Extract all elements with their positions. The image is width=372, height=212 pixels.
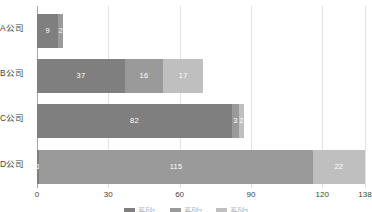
bar-segment-label: 2 <box>59 27 63 35</box>
x-axis-tick-label: 120 <box>316 190 329 199</box>
legend-item[interactable]: 系列1 <box>124 205 156 212</box>
bar-segment-label: 3 <box>233 117 237 125</box>
bar-stack[interactable]: 8232 <box>37 104 244 138</box>
bar-stack[interactable]: 92 <box>37 14 63 48</box>
legend-swatch <box>124 208 135 212</box>
x-axis-tick-label: 138 <box>358 190 371 199</box>
bar-row: 92 <box>37 14 365 48</box>
bar-segment[interactable]: 2 <box>58 14 63 48</box>
bar-segment[interactable]: 115 <box>39 150 312 184</box>
bar-segment-label: 22 <box>334 163 343 171</box>
y-axis-label-0: A公司 <box>0 21 33 33</box>
bar-segment[interactable]: 16 <box>125 59 163 93</box>
bar-segment[interactable]: 82 <box>37 104 232 138</box>
x-axis: 0306090120138 <box>37 190 365 202</box>
legend-item[interactable]: 系列2 <box>170 205 202 212</box>
bar-segment[interactable]: 2 <box>239 104 244 138</box>
bar-segment-label: 2 <box>239 117 243 125</box>
legend-item[interactable]: 系列3 <box>216 205 248 212</box>
legend-swatch <box>216 208 227 212</box>
bar-segment[interactable]: 3 <box>232 104 239 138</box>
legend-label: 系列2 <box>184 205 202 212</box>
x-axis-tick-label: 90 <box>246 190 255 199</box>
y-axis-label-1: B公司 <box>0 66 33 78</box>
legend: 系列1系列2系列3 <box>0 205 372 212</box>
bar-segment-label: 17 <box>179 72 188 80</box>
bar-segment[interactable]: 37 <box>37 59 125 93</box>
bar-segment-label: 37 <box>77 72 86 80</box>
bar-segment-label: 9 <box>46 27 50 35</box>
bar-segment[interactable]: 9 <box>37 14 58 48</box>
bar-segment-label: 115 <box>170 163 183 171</box>
bar-segment-label: 16 <box>140 72 149 80</box>
x-axis-tick-label: 0 <box>35 190 39 199</box>
x-axis-tick-label: 60 <box>175 190 184 199</box>
bar-segment[interactable]: 17 <box>163 59 203 93</box>
gridline-138 <box>365 6 366 188</box>
bar-stack[interactable]: 371617 <box>37 59 203 93</box>
legend-label: 系列1 <box>138 205 156 212</box>
stacked-bar-chart: A公司 B公司 C公司 D公司 923716178232111522 03060… <box>0 0 372 212</box>
y-axis-label-2: C公司 <box>0 111 33 123</box>
bar-stack[interactable]: 111522 <box>37 150 365 184</box>
bar-row: 111522 <box>37 150 365 184</box>
y-axis-label-3: D公司 <box>0 157 33 169</box>
bar-segment-label: 82 <box>130 117 139 125</box>
bar-segment[interactable]: 22 <box>313 150 365 184</box>
plot-area: 923716178232111522 <box>37 6 365 188</box>
legend-swatch <box>170 208 181 212</box>
bar-row: 371617 <box>37 59 365 93</box>
bar-row: 8232 <box>37 104 365 138</box>
legend-label: 系列3 <box>230 205 248 212</box>
x-axis-tick-label: 30 <box>104 190 113 199</box>
